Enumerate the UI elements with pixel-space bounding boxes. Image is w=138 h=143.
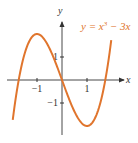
x-tick-label: 1 <box>85 83 90 94</box>
y-tick-label: −1 <box>47 97 58 108</box>
equation-lhs: y = x <box>80 20 104 32</box>
y-axis-label: y <box>57 5 63 16</box>
chart: −111−1 x y y = x3 − 3x <box>0 0 138 143</box>
equation-label: y = x3 − 3x <box>80 20 131 32</box>
x-tick-label: −1 <box>32 83 43 94</box>
x-axis-label: x <box>125 74 131 85</box>
equation-rhs: − 3x <box>107 20 130 32</box>
